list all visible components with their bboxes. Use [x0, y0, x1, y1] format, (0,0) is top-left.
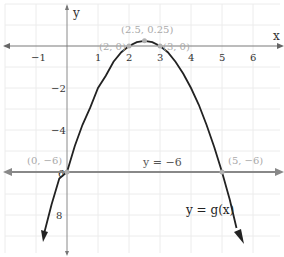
x-tick: 4 — [188, 52, 194, 63]
y-tick: −4 — [51, 125, 66, 136]
y-tick: −2 — [51, 83, 66, 94]
point-intersection-right — [220, 170, 225, 175]
x-axis-arrow-left-icon — [3, 43, 10, 49]
label-root-left: (2, 0) — [99, 41, 126, 52]
hline-arrow-right-icon — [275, 168, 284, 176]
label-intersection-right: (5, −6) — [228, 155, 263, 166]
y-axis-arrow-down-icon — [65, 251, 69, 256]
x-tick: 6 — [250, 52, 256, 63]
graph: y x −1 1 2 3 4 5 6 −2 −4 6 8 (2.5, 0.25)… — [0, 0, 284, 257]
x-tick: 2 — [126, 52, 132, 63]
label-vertex: (2.5, 0.25) — [121, 24, 173, 35]
point-root-right — [158, 44, 163, 49]
point-vertex — [142, 38, 147, 43]
y-axis-label: y — [72, 6, 80, 20]
point-intersection-left — [65, 170, 70, 175]
x-axis-label: x — [273, 29, 280, 43]
label-root-right: (3, 0) — [163, 41, 190, 52]
label-hline-equation: y = −6 — [142, 156, 182, 169]
label-curve-equation: y = g(x) — [185, 203, 234, 217]
x-tick: 1 — [95, 52, 101, 63]
x-tick: 3 — [157, 52, 163, 63]
x-tick: 5 — [219, 52, 225, 63]
label-intersection-left: (0, −6) — [27, 155, 62, 166]
y-axis-arrow-up-icon — [65, 4, 69, 10]
x-axis-arrow-right-icon — [277, 43, 284, 49]
point-root-left — [127, 44, 132, 49]
y-tick: 8 — [56, 210, 62, 221]
hline-arrow-left-icon — [3, 168, 12, 176]
x-tick: −1 — [31, 52, 46, 63]
